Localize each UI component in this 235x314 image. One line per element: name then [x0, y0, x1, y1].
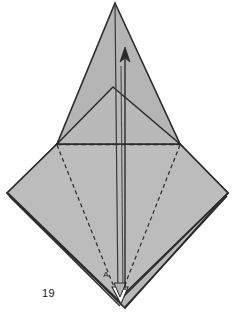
origami-figure: A 19: [0, 0, 235, 314]
origami-diagram-canvas: A: [0, 0, 235, 314]
figure-number: 19: [42, 288, 55, 299]
point-label-a: A: [103, 270, 109, 279]
